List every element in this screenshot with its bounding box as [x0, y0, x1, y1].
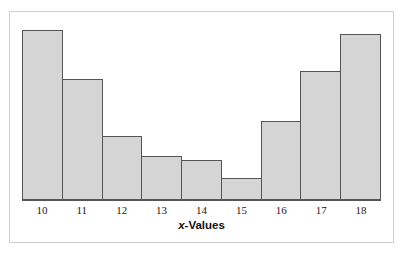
histogram-figure: 101112131415161718 x-Values: [0, 0, 408, 254]
histogram-bars-group: [22, 24, 381, 200]
x-axis-title: x-Values: [22, 219, 381, 231]
histogram-bar: [340, 34, 381, 200]
histogram-bar: [261, 121, 302, 200]
histogram-bar: [22, 30, 63, 200]
x-tick-label: 17: [301, 202, 341, 218]
x-tick-label: 10: [22, 202, 62, 218]
plot-area: [22, 24, 381, 200]
x-tick-label: 13: [142, 202, 182, 218]
histogram-bar: [102, 136, 143, 200]
x-axis-title-text: -Values: [185, 219, 225, 231]
histogram-bar: [300, 71, 341, 200]
histogram-bar: [221, 178, 262, 200]
x-axis-line: [22, 200, 381, 201]
x-tick-label: 12: [102, 202, 142, 218]
x-tick-label: 15: [221, 202, 261, 218]
x-tick-label: 11: [62, 202, 102, 218]
x-tick-label: 14: [182, 202, 222, 218]
histogram-bar: [62, 79, 103, 200]
x-tick-label: 16: [261, 202, 301, 218]
histogram-bar: [141, 156, 182, 200]
histogram-bar: [181, 160, 222, 200]
x-tick-label: 18: [341, 202, 381, 218]
x-axis-tick-labels: 101112131415161718: [22, 202, 381, 218]
